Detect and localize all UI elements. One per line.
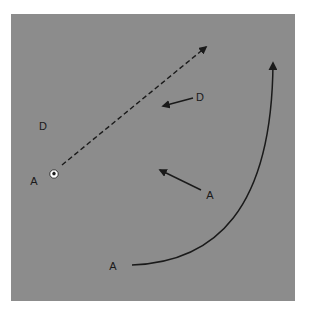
- ball-icon: [50, 170, 58, 178]
- attacker-label: A: [30, 175, 38, 187]
- defender-label: D: [196, 91, 204, 103]
- pitch-field: [11, 14, 295, 301]
- attacker-label: A: [206, 189, 214, 201]
- defender-label: D: [39, 120, 47, 132]
- attacker-label: A: [109, 260, 117, 272]
- tactics-diagram: D D A A A: [0, 0, 309, 310]
